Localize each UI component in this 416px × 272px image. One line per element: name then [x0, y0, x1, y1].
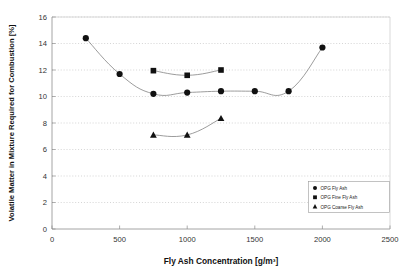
data-point-circle — [218, 88, 224, 94]
chart-figure: 05001000150020002500 0246810121416 Fly A… — [0, 0, 416, 272]
y-tick-label: 2 — [43, 198, 47, 207]
data-point-circle — [252, 88, 258, 94]
data-point-square — [218, 67, 224, 73]
x-tick-label: 1000 — [179, 235, 196, 244]
y-tick-label: 0 — [43, 225, 47, 234]
legend-circle-icon — [313, 186, 317, 190]
legend-label: OPG Coarse Fly Ash — [321, 205, 364, 210]
data-point-square — [184, 73, 190, 79]
figure-background — [0, 0, 416, 272]
legend-square-icon — [313, 195, 317, 199]
x-tick-label: 2000 — [314, 235, 331, 244]
x-tick-label: 2500 — [382, 235, 399, 244]
y-tick-label: 4 — [43, 172, 47, 181]
y-tick-label: 14 — [39, 39, 47, 48]
y-tick-label: 12 — [39, 66, 47, 75]
y-tick-label: 10 — [39, 92, 47, 101]
legend-item-2[interactable]: OPG Coarse Fly Ash — [313, 204, 364, 209]
x-tick-label: 1500 — [246, 235, 263, 244]
data-point-circle — [83, 35, 89, 41]
data-point-circle — [286, 88, 292, 94]
data-point-circle — [184, 89, 190, 95]
x-axis-label: Fly Ash Concentration [g/m³] — [164, 256, 279, 266]
chart-legend[interactable]: OPG Fly AshOPG Fine Fly AshOPG Coarse Fl… — [309, 182, 390, 213]
y-axis-label: Volatile Matter in Mixture Required for … — [7, 24, 16, 221]
data-point-circle — [150, 91, 156, 97]
x-tick-label: 0 — [50, 235, 54, 244]
legend-label: OPG Fine Fly Ash — [321, 195, 358, 200]
chart-canvas: 05001000150020002500 0246810121416 Fly A… — [0, 0, 416, 272]
legend-label: OPG Fly Ash — [321, 186, 348, 191]
y-tick-label: 8 — [43, 119, 47, 128]
legend-item-1[interactable]: OPG Fine Fly Ash — [313, 195, 358, 200]
y-tick-label: 16 — [39, 13, 47, 22]
x-tick-label: 500 — [113, 235, 126, 244]
y-tick-label: 6 — [43, 145, 47, 154]
data-point-circle — [319, 44, 325, 50]
data-point-square — [151, 68, 157, 74]
data-point-circle — [117, 71, 123, 77]
